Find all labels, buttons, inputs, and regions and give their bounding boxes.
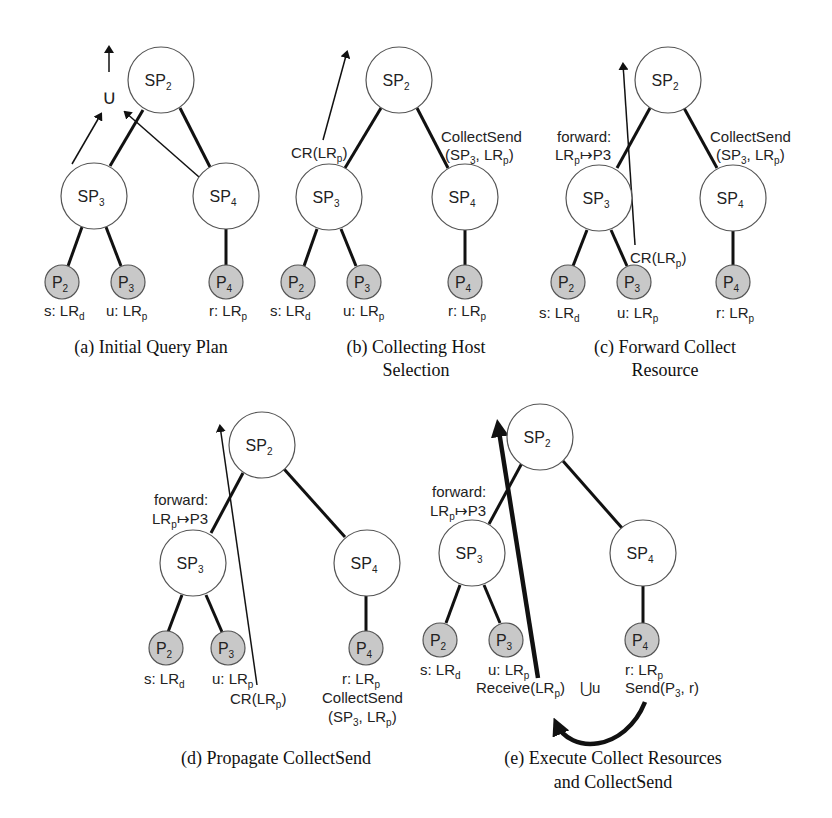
label-receive: Receive(LRp) — [476, 679, 565, 699]
label-collectsend-args: (SP3, LRp) — [328, 708, 397, 728]
node-p2: P2 — [149, 631, 183, 665]
caption-b-line2: Selection — [383, 360, 450, 380]
node-sp4: SP4 — [610, 520, 676, 586]
edge-sp3-p3 — [341, 229, 356, 266]
panel-b: CR(LRp) CollectSend (SP3, LRp) SP2 SP3 S… — [270, 47, 522, 380]
label-r: r: LRp — [448, 302, 487, 322]
edge-sp3-p3 — [484, 585, 500, 623]
panel-a: ∪ SP2 SP3 SP4 P2 P3 P4 s: LRd u: LRp r: … — [44, 47, 259, 358]
label-u: u: LRp — [212, 670, 254, 690]
node-p4: P4 — [349, 631, 383, 665]
label-cr: CR(LRp) — [291, 144, 347, 164]
label-forward: forward: — [432, 483, 486, 500]
label-collectsend: CollectSend — [441, 128, 522, 145]
collect-resources-diagram: ∪ SP2 SP3 SP4 P2 P3 P4 s: LRd u: LRp r: … — [0, 0, 832, 818]
label-u: u: LRp — [106, 302, 148, 322]
label-collectsend: CollectSend — [710, 128, 791, 145]
node-p3: P3 — [489, 623, 523, 657]
panel-d: forward: LRp↦P3 SP2 SP3 SP4 P2 P3 P4 s: … — [144, 412, 403, 769]
label-u: u: LRp — [343, 302, 385, 322]
node-p3: P3 — [211, 631, 245, 665]
label-cr: CR(LRp) — [230, 690, 286, 710]
caption-e-line1: (e) Execute Collect Resources — [504, 748, 721, 769]
node-sp4: SP4 — [432, 164, 498, 230]
node-sp4: SP4 — [193, 163, 259, 229]
node-p2: P2 — [551, 265, 585, 299]
caption-b-line1: (b) Collecting Host — [347, 337, 486, 358]
edge-sp2-sp3 — [345, 108, 381, 168]
node-sp3: SP3 — [296, 164, 362, 230]
label-r: r: LRp — [209, 302, 248, 322]
label-forward-map: LRp↦P3 — [430, 502, 486, 522]
arrow-cr-up — [323, 52, 347, 140]
label-forward-map: LRp↦P3 — [555, 146, 611, 166]
edge-sp2-sp4 — [284, 469, 345, 537]
label-r: r: LRp — [625, 661, 664, 681]
node-p2: P2 — [423, 623, 457, 657]
node-p3: P3 — [617, 265, 651, 299]
label-collectsend-args: (SP3, LRp) — [445, 146, 514, 166]
node-p2: P2 — [45, 265, 79, 299]
node-sp3: SP3 — [439, 520, 505, 586]
arrow-send-to-receive — [556, 702, 645, 744]
edge-sp2-sp4 — [180, 108, 210, 167]
label-union-u: ⋃u — [580, 679, 600, 696]
node-sp3: SP3 — [160, 530, 226, 596]
label-s: s: LRd — [144, 670, 185, 690]
label-s: s: LRd — [539, 304, 580, 324]
node-sp2: SP2 — [128, 47, 194, 113]
edge-sp3-p2 — [68, 227, 82, 266]
edge-sp3-p2 — [446, 585, 460, 623]
node-sp3: SP3 — [61, 163, 127, 229]
node-sp4: SP4 — [700, 165, 766, 231]
edge-sp3-p2 — [304, 229, 317, 266]
caption-d: (d) Propagate CollectSend — [181, 748, 371, 769]
node-p3: P3 — [347, 265, 381, 299]
label-forward-map: LRp↦P3 — [152, 510, 208, 530]
node-p4: P4 — [209, 265, 243, 299]
node-p4: P4 — [716, 265, 750, 299]
label-send: Send(P3, r) — [625, 679, 699, 699]
edge-sp2-sp4 — [563, 461, 622, 528]
arrow-sp3-to-union — [72, 114, 101, 164]
caption-a: (a) Initial Query Plan — [74, 337, 227, 358]
node-sp4: SP4 — [334, 530, 400, 596]
node-p2: P2 — [281, 265, 315, 299]
edge-sp3-p3 — [206, 595, 222, 632]
label-r: r: LRp — [342, 670, 381, 690]
caption-c-line2: Resource — [632, 360, 699, 380]
edge-sp2-sp3 — [617, 108, 650, 168]
label-collectsend-args: (SP3, LRp) — [716, 146, 785, 166]
label-collectsend: CollectSend — [322, 689, 403, 706]
edge-sp3-p2 — [573, 230, 587, 266]
label-forward: forward: — [154, 491, 208, 508]
node-sp2: SP2 — [229, 412, 295, 478]
label-u: u: LRp — [488, 661, 530, 681]
edge-sp2-sp3 — [110, 110, 143, 166]
label-forward: forward: — [557, 128, 611, 145]
label-u: u: LRp — [617, 304, 659, 324]
node-sp2: SP2 — [366, 47, 432, 113]
label-s: s: LRd — [270, 302, 311, 322]
edge-sp3-p2 — [168, 595, 182, 632]
label-r: r: LRp — [716, 304, 755, 324]
node-p4: P4 — [625, 623, 659, 657]
caption-e-line2: and CollectSend — [554, 772, 672, 792]
edge-sp2-sp3 — [211, 473, 243, 533]
node-sp2: SP2 — [507, 404, 573, 470]
label-s: s: LRd — [420, 661, 461, 681]
edge-sp3-p3 — [106, 227, 121, 266]
union-symbol: ∪ — [102, 86, 117, 108]
edge-sp3-p3 — [611, 230, 627, 266]
node-p4: P4 — [448, 265, 482, 299]
panel-c: forward: LRp↦P3 CollectSend (SP3, LRp) C… — [539, 47, 791, 380]
node-sp3: SP3 — [566, 165, 632, 231]
label-s: s: LRd — [44, 302, 85, 322]
caption-c-line1: (c) Forward Collect — [594, 337, 736, 358]
panel-e: forward: LRp↦P3 SP2 SP3 SP4 P2 P3 P4 s: … — [420, 404, 722, 792]
node-p3: P3 — [111, 265, 145, 299]
node-sp2: SP2 — [635, 47, 701, 113]
